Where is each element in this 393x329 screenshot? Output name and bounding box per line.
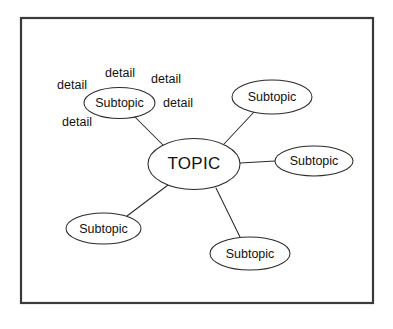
subtopic-bottom-center-label: Subtopic xyxy=(226,247,275,261)
node-subtopic-bottom-left[interactable]: Subtopic xyxy=(66,213,141,244)
topic-label: TOPIC xyxy=(167,154,220,173)
node-subtopic-bottom-center[interactable]: Subtopic xyxy=(210,237,290,270)
detail-label-top: detail xyxy=(105,66,135,80)
detail-label-right: detail xyxy=(163,96,193,110)
node-subtopic-top-right[interactable]: Subtopic xyxy=(232,80,312,114)
node-subtopic-right[interactable]: Subtopic xyxy=(275,146,353,176)
mindmap-canvas: TOPIC Subtopic Subtopic Subtopic Subtopi… xyxy=(0,0,393,329)
detail-label-top-right: detail xyxy=(151,72,181,86)
connector-topic-to-bottom-center xyxy=(216,188,240,237)
subtopic-top-left-label: Subtopic xyxy=(95,96,144,110)
mindmap-diagram: TOPIC Subtopic Subtopic Subtopic Subtopi… xyxy=(0,0,393,329)
detail-label-bottom-left: detail xyxy=(62,115,92,129)
connector-topic-to-right xyxy=(240,161,275,163)
node-subtopic-top-left[interactable]: Subtopic xyxy=(84,88,155,119)
detail-label-left: detail xyxy=(57,78,87,92)
node-topic[interactable]: TOPIC xyxy=(148,139,240,190)
subtopic-top-right-label: Subtopic xyxy=(248,90,297,104)
connector-topic-to-top-left xyxy=(135,117,163,145)
connector-topic-to-bottom-left xyxy=(127,185,168,216)
connector-topic-to-top-right xyxy=(224,112,254,144)
subtopic-bottom-left-label: Subtopic xyxy=(79,222,128,236)
subtopic-right-label: Subtopic xyxy=(290,154,339,168)
